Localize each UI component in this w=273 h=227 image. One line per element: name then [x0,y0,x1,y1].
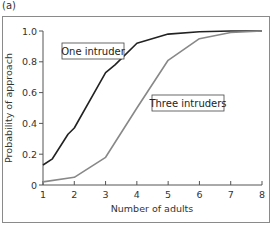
axes: 1234567800.20.40.60.81.0 [22,26,265,201]
series-labels: One intruderThree intruders [61,43,226,111]
y-axis-title: Probability of approach [3,53,14,163]
x-tick-label: 1 [40,189,46,200]
x-tick-label: 6 [196,189,202,200]
y-tick-label: 0.4 [22,118,37,129]
x-tick-label: 7 [228,189,234,200]
x-tick-label: 5 [165,189,171,200]
series-label: One intruder [61,46,126,57]
series-label: Three intruders [148,98,226,109]
x-tick-label: 2 [71,189,77,200]
x-tick-label: 3 [103,189,109,200]
y-tick-label: 0 [31,180,37,191]
x-tick-label: 4 [134,189,140,200]
y-tick-label: 1.0 [22,26,37,37]
y-tick-label: 0.6 [22,87,37,98]
y-tick-label: 0.2 [22,149,37,160]
x-tick-label: 8 [259,189,265,200]
y-tick-label: 0.8 [22,56,37,67]
x-axis-title: Number of adults [111,203,194,214]
line-chart: 1234567800.20.40.60.81.0 One intruderThr… [0,0,273,227]
